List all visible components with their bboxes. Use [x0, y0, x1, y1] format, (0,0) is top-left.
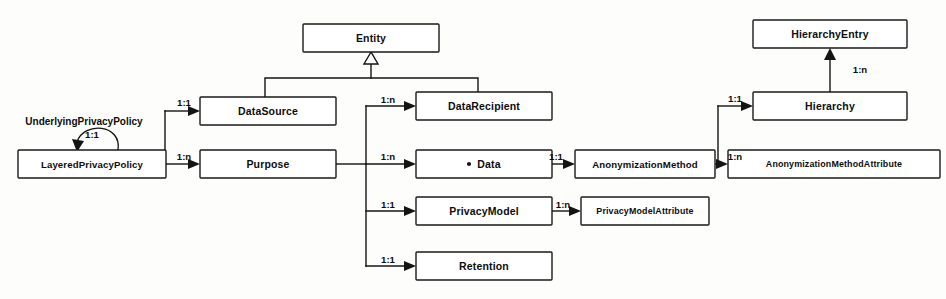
edge-hier-hierentry: [824, 48, 836, 92]
mult-purpose-retention: 1:1: [381, 254, 396, 265]
node-entity-label: Entity: [356, 32, 386, 44]
assoc-name-underlying-privacy-policy: UnderlyingPrivacyPolicy: [25, 116, 143, 127]
mult-purpose-data: 1:n: [381, 151, 396, 162]
node-data-source-label: DataSource: [238, 105, 298, 117]
edge-purpose-bus: [336, 101, 416, 271]
node-entity[interactable]: Entity: [303, 24, 439, 52]
mult-anonymizationmethod-hierarchy: 1:1: [728, 93, 743, 104]
node-hierarchy[interactable]: Hierarchy: [753, 92, 907, 120]
mult-data-anonymizationmethod: 1:1: [549, 151, 564, 162]
mult-purpose-datarecipient: 1:n: [381, 94, 396, 105]
generalization-entity: [265, 52, 478, 97]
node-hierarchy-entry[interactable]: HierarchyEntry: [753, 20, 907, 48]
node-data-recipient[interactable]: DataRecipient: [416, 92, 552, 120]
node-purpose-label: Purpose: [246, 158, 289, 170]
node-data-label: Data: [477, 158, 500, 170]
mult-purpose-privacymodel: 1:1: [381, 199, 396, 210]
uml-svg-surface: Entity DataSource DataRecipient LayeredP…: [0, 0, 946, 299]
node-layered-privacy-policy[interactable]: LayeredPrivacyPolicy: [18, 150, 166, 178]
node-privacy-model-attribute-label: PrivacyModelAttribute: [596, 206, 693, 216]
node-anonymization-method-attribute-label: AnonymizationMethodAttribute: [766, 159, 902, 169]
mult-lpp-datasource: 1:1: [177, 97, 192, 108]
mult-lpp-self: 1:1: [85, 129, 100, 140]
node-privacy-model-attribute[interactable]: PrivacyModelAttribute: [581, 197, 709, 225]
node-data-source[interactable]: DataSource: [200, 97, 336, 125]
node-privacy-model-label: PrivacyModel: [449, 205, 519, 217]
mult-lpp-purpose: 1:n: [177, 151, 192, 162]
node-anonymization-method-attribute[interactable]: AnonymizationMethodAttribute: [728, 150, 940, 178]
node-retention[interactable]: Retention: [416, 252, 552, 280]
uml-diagram-canvas: Entity DataSource DataRecipient LayeredP…: [0, 0, 946, 299]
node-data[interactable]: Data: [416, 150, 552, 178]
node-privacy-model[interactable]: PrivacyModel: [416, 197, 552, 225]
mult-hierarchy-hierarchyentry: 1:n: [853, 64, 868, 75]
bullet-icon: [467, 162, 471, 166]
nodes-layer: Entity DataSource DataRecipient LayeredP…: [18, 20, 940, 280]
node-layered-privacy-policy-label: LayeredPrivacyPolicy: [41, 159, 144, 170]
node-data-recipient-label: DataRecipient: [448, 100, 520, 112]
node-anonymization-method[interactable]: AnonymizationMethod: [575, 150, 715, 178]
node-hierarchy-entry-label: HierarchyEntry: [791, 28, 868, 40]
node-retention-label: Retention: [459, 260, 509, 272]
mult-anonymizationmethod-attribute: 1:n: [728, 151, 743, 162]
node-purpose[interactable]: Purpose: [200, 150, 336, 178]
mult-privacymodel-attribute: 1:n: [556, 199, 571, 210]
node-anonymization-method-label: AnonymizationMethod: [592, 159, 698, 170]
node-hierarchy-label: Hierarchy: [805, 100, 855, 112]
